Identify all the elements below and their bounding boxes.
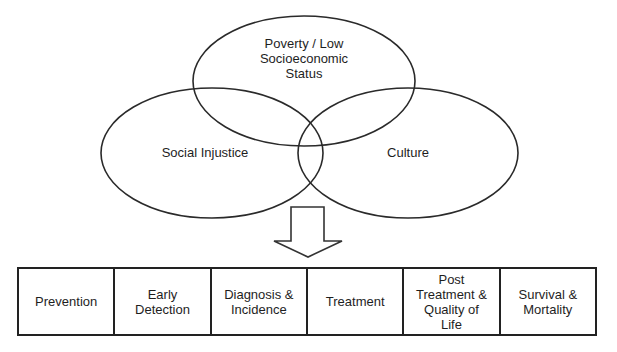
culture-label: Culture — [387, 145, 429, 160]
social-injustice-label: Social Injustice — [162, 145, 249, 160]
stage-treatment: Treatment — [308, 269, 404, 334]
cancer-continuum-table: Prevention Early Detection Diagnosis & I… — [17, 267, 597, 336]
stage-survival-mortality: Survival & Mortality — [501, 269, 595, 334]
down-arrow-icon — [274, 207, 342, 257]
poverty-label: Poverty / Low Socioeconomic Status — [260, 36, 348, 81]
stage-diagnosis-incidence: Diagnosis & Incidence — [212, 269, 308, 334]
stage-prevention: Prevention — [19, 269, 115, 334]
stage-early-detection: Early Detection — [115, 269, 211, 334]
stage-post-treatment-quality-of-life: Post Treatment & Quality of Life — [404, 269, 500, 334]
